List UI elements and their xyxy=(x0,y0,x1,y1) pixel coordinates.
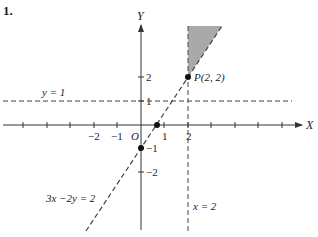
y-tick-label: 2 xyxy=(146,71,152,83)
point-x-intercept xyxy=(154,122,160,128)
y-tick-label: −2 xyxy=(146,166,158,178)
line-y-equals-1-label: y = 1 xyxy=(41,86,65,98)
problem-number: 1. xyxy=(3,3,13,18)
line-3x-minus-2y-label: 3x −2y = 2 xyxy=(45,192,96,204)
x-axis xyxy=(3,122,302,128)
y-axis xyxy=(138,25,144,230)
point-p-label: P(2, 2) xyxy=(193,71,225,84)
point-p xyxy=(185,74,191,80)
coordinate-figure: 1. X Y −2 −1 O 1 2 2 1 −1 −2 y = 1 x = xyxy=(0,0,318,237)
x-axis-label: X xyxy=(305,118,314,132)
x-tick-label: −2 xyxy=(88,130,100,142)
x-tick-label: −1 xyxy=(111,130,123,142)
x-tick-label: 2 xyxy=(186,130,192,142)
line-x-equals-2-label: x = 2 xyxy=(192,200,217,212)
point-y-intercept xyxy=(138,145,144,151)
origin-label: O xyxy=(131,130,139,142)
y-tick-label: −1 xyxy=(146,142,158,154)
x-tick-label: 1 xyxy=(162,130,168,142)
y-axis-label: Y xyxy=(137,9,145,23)
